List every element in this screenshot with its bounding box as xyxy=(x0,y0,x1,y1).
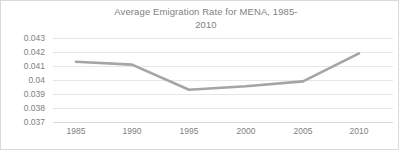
x-axis-tick-label: 2000 xyxy=(216,126,276,136)
y-axis-tick-label: 0.043 xyxy=(1,32,49,46)
x-axis-tick-label: 2010 xyxy=(329,126,389,136)
x-axis-tick-label: 1990 xyxy=(102,126,162,136)
x-axis-tick-label: 2005 xyxy=(273,126,333,136)
y-axis-tick-labels: 0.043 0.042 0.041 0.04 0.039 0.038 0.037 xyxy=(1,32,49,130)
x-axis-tick-label: 1995 xyxy=(159,126,219,136)
y-axis-tick-label: 0.04 xyxy=(1,74,49,88)
chart-container: Average Emigration Rate for MENA, 1985- … xyxy=(0,0,399,150)
y-axis-tick-label: 0.041 xyxy=(1,60,49,74)
x-axis-tick-labels: 1985 1990 1995 2000 2005 2010 xyxy=(53,126,393,142)
x-axis-tick-label: 1985 xyxy=(46,126,106,136)
chart-title: Average Emigration Rate for MENA, 1985- … xyxy=(56,5,356,31)
x-axis-line xyxy=(53,122,393,123)
y-axis-tick-label: 0.039 xyxy=(1,88,49,102)
y-axis-tick-label: 0.038 xyxy=(1,102,49,116)
y-axis-tick-label: 0.042 xyxy=(1,46,49,60)
series-polyline xyxy=(76,53,359,89)
line-series xyxy=(53,38,393,122)
plot-area xyxy=(53,38,393,122)
y-axis-tick-label: 0.037 xyxy=(1,116,49,130)
